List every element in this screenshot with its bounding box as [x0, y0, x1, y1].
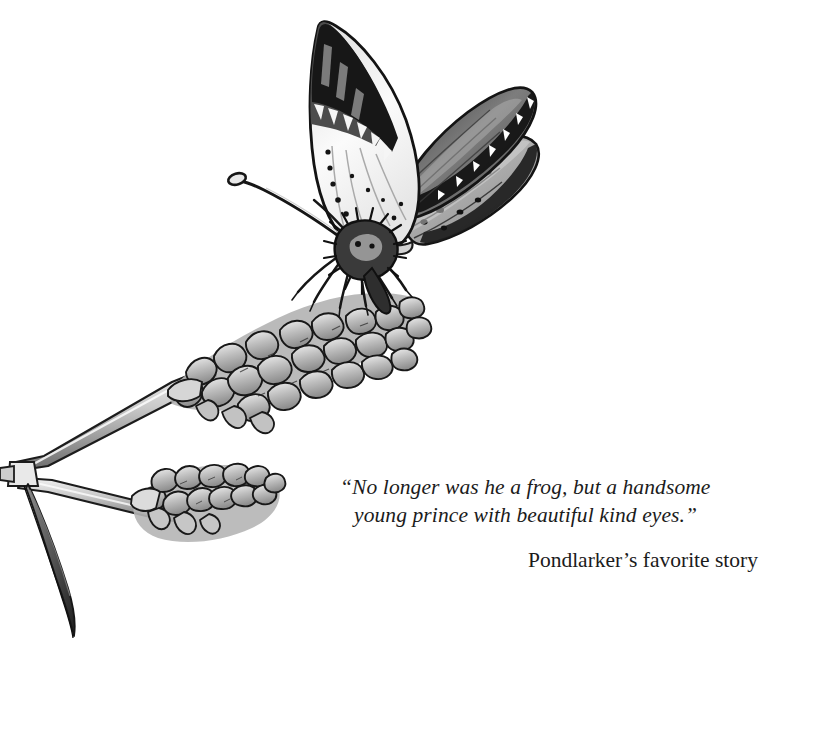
butterfly-left-forewing	[310, 22, 419, 254]
illustration-page: “No longer was he a frog, but a handsome…	[0, 0, 830, 734]
caption-block: “No longer was he a frog, but a handsome…	[336, 473, 766, 574]
lower-flower-spike	[131, 464, 285, 542]
butterfly	[227, 22, 539, 317]
upper-flower-spike	[168, 293, 431, 433]
quote-line-1: “No longer was he a frog, but a handsome	[336, 473, 766, 501]
butterfly-illustration	[0, 0, 830, 734]
quote-line-2: young prince with beautiful kind eyes.”	[336, 501, 766, 529]
drooping-leaf	[24, 484, 75, 638]
quote-attribution: Pondlarker’s favorite story	[336, 546, 766, 574]
